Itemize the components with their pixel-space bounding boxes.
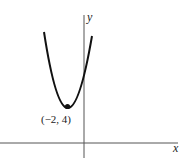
- parabola-graph: y x (−2, 4): [0, 0, 189, 163]
- vertex-point: [65, 104, 70, 109]
- x-axis-label: x: [172, 141, 179, 155]
- vertex-label: (−2, 4): [41, 113, 71, 126]
- parabola-curve: [44, 32, 92, 108]
- y-axis-label: y: [86, 10, 93, 24]
